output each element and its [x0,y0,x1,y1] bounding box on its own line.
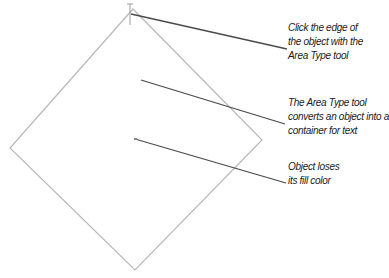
callout-line: Click the edge of [288,21,363,35]
callout-line: the object with the [288,35,363,49]
callout-line: its fill color [288,174,339,188]
callout-line: converts an object into a [288,110,389,124]
leader-line-2 [141,80,285,124]
callout-line: container for text [288,124,389,138]
callout-line: Object loses [288,160,339,174]
callout-click-edge: Click the edge of the object with the Ar… [288,21,363,63]
callout-converts-object: The Area Type tool converts an object in… [288,96,389,138]
fill-point-marker [134,138,137,140]
callout-loses-fill: Object loses its fill color [288,160,339,188]
callout-line: Area Type tool [288,49,363,63]
callout-line: The Area Type tool [288,96,389,110]
leader-line-3 [135,139,286,183]
